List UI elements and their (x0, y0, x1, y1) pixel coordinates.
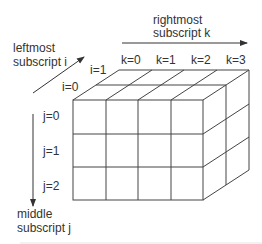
j-axis-title-line1: middle (17, 207, 53, 221)
k-tick-0: k=0 (121, 53, 141, 67)
k-tick-3: k=3 (226, 53, 246, 67)
right-face-grid (203, 70, 249, 200)
i-axis-title-line1: leftmost (13, 41, 56, 55)
k-tick-1: k=1 (156, 53, 176, 67)
k-axis-title-line1: rightmost (153, 13, 203, 27)
k-tick-2: k=2 (191, 53, 211, 67)
j-tick-2: j=2 (42, 179, 60, 193)
j-tick-1: j=1 (42, 144, 60, 158)
i-tick-0: i=0 (62, 80, 79, 94)
k-axis-title-line2: subscript k (153, 26, 211, 40)
front-face-grid (73, 100, 203, 200)
i-axis-title-line2: subscript i (13, 55, 67, 69)
j-tick-0: j=0 (42, 109, 60, 123)
j-axis-title-line2: subscript j (17, 221, 71, 235)
array-cube-diagram: leftmost subscript i rightmost subscript… (0, 0, 262, 244)
i-tick-1: i=1 (90, 63, 107, 77)
